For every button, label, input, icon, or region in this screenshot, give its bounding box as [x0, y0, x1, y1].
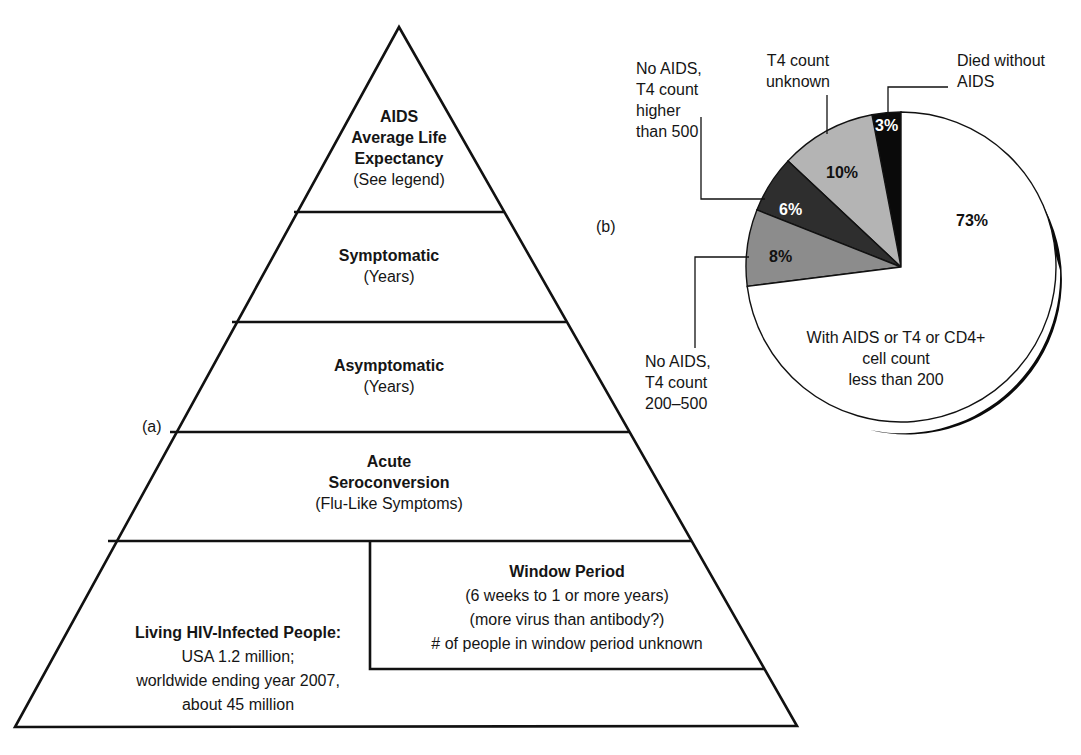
window-period-title: Window Period [372, 560, 762, 584]
callout-200-500-line-2: T4 count [645, 372, 711, 393]
panel-a-label: (a) [142, 416, 162, 437]
level-acute-title-2: Seroconversion [264, 472, 514, 493]
level-aids-title-1: AIDS [299, 106, 499, 127]
callout-200-500: No AIDS, T4 count 200–500 [645, 351, 711, 414]
callout-less-200-line-1: With AIDS or T4 or CD4+ [796, 327, 996, 348]
level-acute-seroconversion: Acute Seroconversion (Flu-Like Symptoms) [264, 451, 514, 514]
level-aids: AIDS Average Life Expectancy (See legend… [299, 106, 499, 190]
living-hiv-infected: Living HIV-Infected People: USA 1.2 mill… [88, 621, 388, 717]
level-symptomatic-subtitle: (Years) [289, 266, 489, 287]
living-hiv-line-3: about 45 million [88, 693, 388, 717]
slice-label-6pct: 6% [779, 201, 802, 219]
window-period-line-3: # of people in window period unknown [372, 632, 762, 656]
level-symptomatic: Symptomatic (Years) [289, 245, 489, 287]
living-hiv-line-1: USA 1.2 million; [88, 645, 388, 669]
slice-label-8pct: 8% [769, 248, 792, 266]
level-acute-title-1: Acute [264, 451, 514, 472]
callout-died-line-1: Died without [957, 50, 1045, 71]
callout-t4-unknown: T4 count unknown [758, 50, 838, 92]
callout-higher-500-line-2: T4 count [636, 79, 702, 100]
living-hiv-line-2: worldwide ending year 2007, [88, 669, 388, 693]
callout-higher-500-line-1: No AIDS, [636, 58, 702, 79]
leader-higher-500 [701, 117, 765, 199]
callout-higher-500-line-3: higher [636, 100, 702, 121]
level-asymptomatic-title: Asymptomatic [289, 355, 489, 376]
slice-label-3pct: 3% [875, 117, 898, 135]
level-aids-subtitle: (See legend) [299, 169, 499, 190]
callout-died-line-2: AIDS [957, 71, 1045, 92]
level-aids-title-3: Expectancy [299, 148, 499, 169]
window-period: Window Period (6 weeks to 1 or more year… [372, 560, 762, 656]
window-period-line-2: (more virus than antibody?) [372, 608, 762, 632]
callout-less-200: With AIDS or T4 or CD4+ cell count less … [796, 327, 996, 390]
callout-less-200-line-2: cell count [796, 348, 996, 369]
level-acute-subtitle: (Flu-Like Symptoms) [264, 493, 514, 514]
level-aids-title-2: Average Life [299, 127, 499, 148]
window-period-line-1: (6 weeks to 1 or more years) [372, 584, 762, 608]
slice-label-73pct: 73% [956, 212, 988, 230]
callout-200-500-line-3: 200–500 [645, 393, 711, 414]
callout-less-200-line-3: less than 200 [796, 369, 996, 390]
level-asymptomatic: Asymptomatic (Years) [289, 355, 489, 397]
callout-died-without-aids: Died without AIDS [957, 50, 1045, 92]
callout-higher-500-line-4: than 500 [636, 121, 702, 142]
slice-label-10pct: 10% [826, 164, 858, 182]
living-hiv-title: Living HIV-Infected People: [88, 621, 388, 645]
callout-t4-unknown-line-1: T4 count [758, 50, 838, 71]
callout-200-500-line-1: No AIDS, [645, 351, 711, 372]
callout-t4-unknown-line-2: unknown [758, 71, 838, 92]
level-symptomatic-title: Symptomatic [289, 245, 489, 266]
callout-higher-500: No AIDS, T4 count higher than 500 [636, 58, 702, 142]
leader-200-500 [695, 257, 749, 348]
level-asymptomatic-subtitle: (Years) [289, 376, 489, 397]
panel-b-label: (b) [596, 216, 616, 237]
